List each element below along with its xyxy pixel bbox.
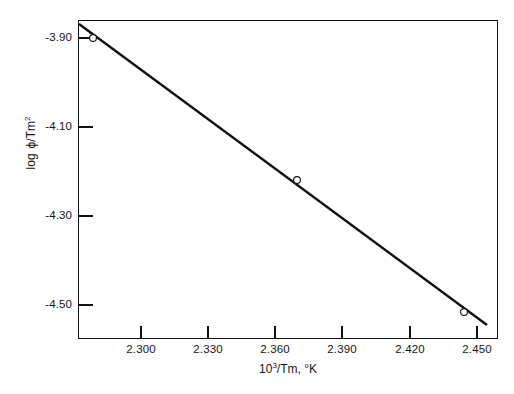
y-tick-label-4: -4.50 [28, 298, 72, 310]
figure-root: -3.90 -4.10 -4.30 -4.50 2.300 2.330 2.36… [0, 0, 514, 394]
data-point-3 [461, 309, 468, 316]
y-axis-title: logϕ/Tm2 [24, 88, 38, 198]
x-tick-label-4: 2.390 [312, 343, 372, 355]
figure-background [0, 0, 514, 394]
phi-symbol: ϕ [24, 142, 38, 149]
x-axis-title-degree-kelvin: °K [304, 362, 317, 376]
data-point-2 [294, 177, 301, 184]
x-tick-label-2: 2.330 [178, 343, 238, 355]
x-axis-title-base: 10 [259, 362, 272, 376]
x-tick-label-1: 2.300 [111, 343, 171, 355]
data-point-1 [90, 35, 97, 42]
plot-canvas [0, 0, 514, 394]
y-axis-title-log: log [24, 153, 38, 169]
x-axis-title: 103/Tm, °K [78, 362, 498, 376]
y-axis-title-exponent: 2 [23, 117, 32, 121]
y-tick-label-3: -4.30 [28, 209, 72, 221]
x-tick-label-3: 2.360 [245, 343, 305, 355]
x-tick-label-5: 2.420 [380, 343, 440, 355]
y-axis-title-denominator: /Tm [24, 121, 38, 142]
y-tick-label-1: -3.90 [28, 31, 72, 43]
x-tick-label-6: 2.450 [447, 343, 507, 355]
x-axis-title-rest: /Tm, [277, 362, 304, 376]
